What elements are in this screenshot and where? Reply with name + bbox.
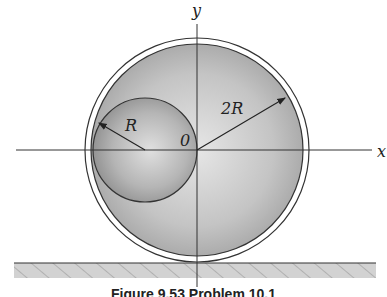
figure-caption: Figure 9.53 Problem 10.1 xyxy=(0,284,387,297)
cylinder-diagram: y x 0 R 2R xyxy=(0,0,387,297)
small-radius-label: R xyxy=(124,116,137,135)
x-axis-label: x xyxy=(377,142,386,161)
origin-label: 0 xyxy=(180,131,190,150)
ground xyxy=(14,263,376,278)
large-radius-label: 2R xyxy=(220,99,243,118)
y-axis-label: y xyxy=(191,1,202,20)
